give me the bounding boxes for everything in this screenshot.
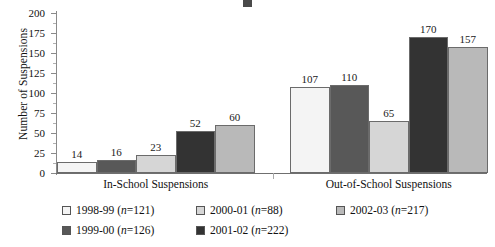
bar-value-label: 23 [136, 141, 176, 153]
bar [409, 37, 449, 173]
y-axis-tick [51, 173, 56, 174]
y-axis-tick [51, 93, 56, 94]
legend-swatch [336, 206, 345, 215]
y-axis-minor-tick [53, 163, 56, 164]
y-axis-tick [51, 73, 56, 74]
bar [448, 47, 488, 173]
legend-swatch [62, 226, 71, 235]
y-axis-minor-tick [53, 83, 56, 84]
suspensions-bar-chart: Number of Suspensions 025507510012515017… [0, 0, 495, 247]
bar-value-label: 110 [330, 71, 370, 83]
y-axis-tick [51, 53, 56, 54]
legend-item[interactable]: 2002-03 (n=217) [336, 204, 428, 216]
y-axis-tick [51, 33, 56, 34]
y-axis-tick-label: 25 [15, 148, 45, 158]
bar-value-label: 65 [369, 107, 409, 119]
y-axis-minor-tick [53, 103, 56, 104]
legend-label: 1998-99 (n=121) [76, 204, 154, 216]
y-axis-tick-label: 150 [15, 48, 45, 58]
y-axis-tick-label: 200 [15, 8, 45, 18]
bar [136, 155, 176, 173]
y-axis-tick-label: 100 [15, 88, 45, 98]
bar-value-label: 14 [57, 148, 97, 160]
group-separator-tick [273, 173, 274, 179]
y-axis-minor-tick [53, 43, 56, 44]
y-axis-minor-tick [53, 23, 56, 24]
bar [57, 162, 97, 173]
y-axis-tick [51, 13, 56, 14]
bar-value-label: 60 [215, 111, 255, 123]
bar-value-label: 16 [97, 146, 137, 158]
legend-label: 2000-01 (n=88) [210, 204, 283, 216]
y-axis-minor-tick [53, 63, 56, 64]
legend-swatch [196, 206, 205, 215]
y-axis-minor-tick [53, 143, 56, 144]
bar-value-label: 157 [448, 33, 488, 45]
legend-swatch [196, 226, 205, 235]
bar [215, 125, 255, 173]
legend-item[interactable]: 1998-99 (n=121) [62, 204, 154, 216]
y-axis-title: Number of Suspensions [17, 0, 29, 169]
y-axis-tick-label: 175 [15, 28, 45, 38]
y-axis-tick-label: 125 [15, 68, 45, 78]
bar [97, 160, 137, 173]
category-axis-label: Out-of-School Suspensions [279, 178, 495, 190]
chart-legend: 1998-99 (n=121)1999-00 (n=126)2000-01 (n… [0, 200, 495, 247]
bar [290, 87, 330, 173]
bar-value-label: 107 [290, 73, 330, 85]
x-axis-line [56, 173, 487, 174]
bar-value-label: 170 [409, 23, 449, 35]
bar [176, 131, 216, 173]
y-axis-tick [51, 113, 56, 114]
y-axis-tick [51, 153, 56, 154]
y-axis-minor-tick [53, 123, 56, 124]
legend-label: 2002-03 (n=217) [350, 204, 428, 216]
legend-label: 2001-02 (n=222) [210, 224, 288, 236]
y-axis-tick-label: 50 [15, 128, 45, 138]
legend-swatch [62, 206, 71, 215]
bar [330, 85, 370, 173]
legend-item[interactable]: 1999-00 (n=126) [62, 224, 154, 236]
title-remnant [243, 0, 252, 7]
bar [369, 121, 409, 173]
y-axis-tick [51, 133, 56, 134]
category-axis-label: In-School Suspensions [46, 178, 266, 190]
legend-label: 1999-00 (n=126) [76, 224, 154, 236]
y-axis-tick-label: 0 [15, 168, 45, 178]
y-axis-tick-label: 75 [15, 108, 45, 118]
legend-item[interactable]: 2001-02 (n=222) [196, 224, 288, 236]
legend-item[interactable]: 2000-01 (n=88) [196, 204, 283, 216]
bar-value-label: 52 [176, 117, 216, 129]
